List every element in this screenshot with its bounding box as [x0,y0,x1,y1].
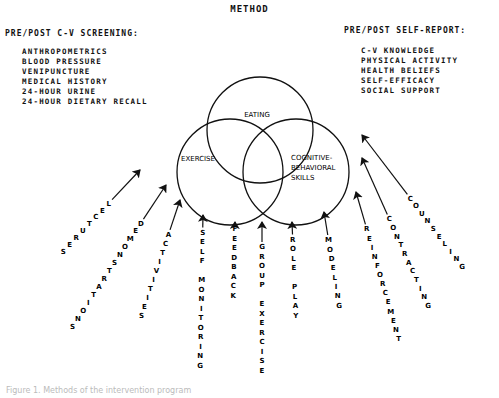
intervention-label: GROUP EXERCISE [259,243,265,375]
circle-label-eating: EATING [244,111,270,119]
intervention-label: COUNSELING [408,195,466,271]
intervention-label: SELF MONITORING [197,229,205,370]
intervention-label: LECTURES [61,200,112,256]
intervention-arrow [143,185,166,219]
intervention-arrow [170,200,180,230]
circle-label-cognitive-behavioral: COGNITIVE- BEHAVIORAL SKILLS [291,154,338,182]
intervention-arrow [112,170,140,200]
intervention-label: REINFORCEMENT [364,225,401,342]
intervention-arrow [292,222,293,235]
venn-diagram: EATING EXERCISE COGNITIVE- BEHAVIORAL SK… [0,0,499,398]
intervention-label: DEMONSTRATIONS [70,220,144,331]
intervention-label: MODELING [325,236,342,310]
circle-label-exercise: EXERCISE [181,155,215,163]
intervention-label: ROLE PLAY [290,236,299,320]
circle-cognitive-behavioral [243,119,349,225]
intervention-arrow [362,158,387,215]
circle-exercise [177,119,283,225]
intervention-label: FEEDBACK [230,225,237,299]
intervention-label: CONTRACTING [387,215,431,310]
intervention-arrow [356,192,365,224]
intervention-arrow [362,135,407,194]
figure-caption: Figure 1. Methods of the intervention pr… [6,386,191,395]
intervention-label: ACTIVITIES [139,231,172,320]
